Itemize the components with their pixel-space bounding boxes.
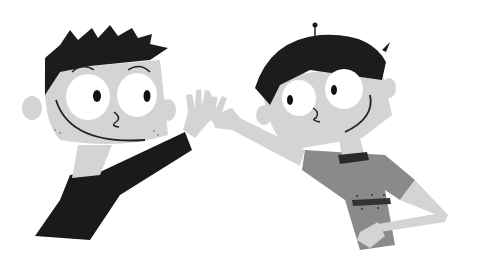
left-boy [22, 25, 218, 240]
illustration: Grayscale cartoon illustration of two bo… [0, 0, 477, 275]
right-boy [205, 23, 448, 251]
left-boy-ear [22, 96, 42, 120]
right-boy-antenna-tip [313, 23, 318, 28]
right-boy-eye-right [325, 69, 363, 109]
left-boy-eye-right [117, 73, 157, 117]
left-boy-shirt [35, 132, 192, 240]
right-boy-eye-left [282, 80, 316, 116]
left-boy-eye-left [66, 74, 110, 120]
